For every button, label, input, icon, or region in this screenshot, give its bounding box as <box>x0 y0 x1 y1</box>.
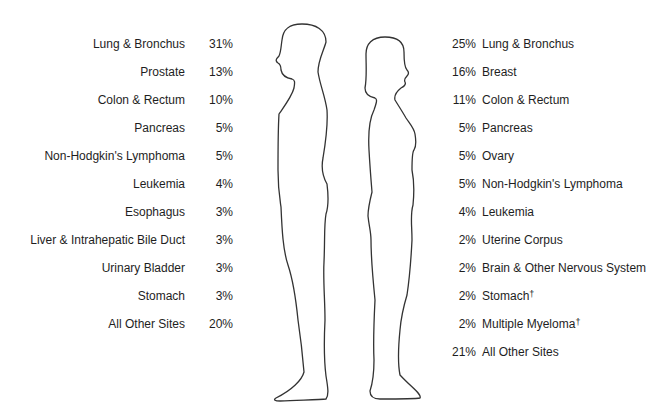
site-label: Prostate <box>140 62 185 82</box>
site-percent: 5% <box>199 146 233 166</box>
male-site-row: Esophagus3% <box>0 202 233 222</box>
site-percent: 3% <box>199 286 233 306</box>
site-label: Breast <box>482 65 517 79</box>
site-label: Non-Hodgkin's Lymphoma <box>482 177 623 191</box>
site-percent: 31% <box>199 34 233 54</box>
site-percent: 5% <box>199 118 233 138</box>
male-silhouette-icon <box>275 24 328 401</box>
site-percent: 2% <box>444 314 476 334</box>
site-label: All Other Sites <box>108 314 185 334</box>
site-label: Colon & Rectum <box>482 93 569 107</box>
male-site-row: Colon & Rectum10% <box>0 90 233 110</box>
footnote-dagger: † <box>575 317 580 327</box>
female-site-row: 2%Stomach† <box>444 286 671 306</box>
female-silhouette-icon <box>365 37 420 399</box>
male-site-row: All Other Sites20% <box>0 314 233 334</box>
site-percent: 10% <box>199 90 233 110</box>
site-label: Brain & Other Nervous System <box>482 261 646 275</box>
site-label: Esophagus <box>125 202 185 222</box>
site-percent: 2% <box>444 286 476 306</box>
site-percent: 2% <box>444 230 476 250</box>
site-label: All Other Sites <box>482 345 559 359</box>
female-site-row: 4%Leukemia <box>444 202 671 222</box>
site-percent: 11% <box>444 90 476 110</box>
male-site-row: Prostate13% <box>0 62 233 82</box>
site-percent: 21% <box>444 342 476 362</box>
site-percent: 4% <box>199 174 233 194</box>
site-label: Ovary <box>482 149 514 163</box>
male-site-row: Liver & Intrahepatic Bile Duct3% <box>0 230 233 250</box>
site-label: Multiple Myeloma <box>482 317 575 331</box>
site-percent: 4% <box>444 202 476 222</box>
site-percent: 16% <box>444 62 476 82</box>
male-site-row: Pancreas5% <box>0 118 233 138</box>
site-label: Liver & Intrahepatic Bile Duct <box>30 230 185 250</box>
site-label: Pancreas <box>482 121 533 135</box>
male-site-row: Leukemia4% <box>0 174 233 194</box>
female-site-row: 16%Breast <box>444 62 671 82</box>
site-percent: 3% <box>199 230 233 250</box>
female-site-row: 2%Multiple Myeloma† <box>444 314 671 334</box>
female-site-row: 5%Non-Hodgkin's Lymphoma <box>444 174 671 194</box>
site-percent: 5% <box>444 174 476 194</box>
male-site-row: Stomach3% <box>0 286 233 306</box>
site-label: Non-Hodgkin's Lymphoma <box>44 146 185 166</box>
footnote-dagger: † <box>529 289 534 299</box>
site-label: Uterine Corpus <box>482 233 563 247</box>
female-site-row: 5%Pancreas <box>444 118 671 138</box>
female-site-row: 2%Uterine Corpus <box>444 230 671 250</box>
site-label: Leukemia <box>482 205 534 219</box>
site-label: Pancreas <box>134 118 185 138</box>
body-figures <box>240 0 440 413</box>
male-site-row: Lung & Bronchus31% <box>0 34 233 54</box>
site-percent: 3% <box>199 202 233 222</box>
female-site-row: 21%All Other Sites <box>444 342 671 362</box>
site-percent: 2% <box>444 258 476 278</box>
female-site-row: 5%Ovary <box>444 146 671 166</box>
female-site-row: 2%Brain & Other Nervous System <box>444 258 671 278</box>
male-site-row: Non-Hodgkin's Lymphoma5% <box>0 146 233 166</box>
site-percent: 3% <box>199 258 233 278</box>
site-label: Stomach <box>482 289 529 303</box>
site-percent: 20% <box>199 314 233 334</box>
site-label: Colon & Rectum <box>98 90 185 110</box>
site-label: Lung & Bronchus <box>93 34 185 54</box>
site-percent: 5% <box>444 118 476 138</box>
site-label: Stomach <box>138 286 185 306</box>
female-site-row: 25%Lung & Bronchus <box>444 34 671 54</box>
site-label: Lung & Bronchus <box>482 37 574 51</box>
site-percent: 25% <box>444 34 476 54</box>
female-site-row: 11%Colon & Rectum <box>444 90 671 110</box>
site-percent: 5% <box>444 146 476 166</box>
site-label: Leukemia <box>133 174 185 194</box>
site-percent: 13% <box>199 62 233 82</box>
male-site-row: Urinary Bladder3% <box>0 258 233 278</box>
site-label: Urinary Bladder <box>102 258 185 278</box>
